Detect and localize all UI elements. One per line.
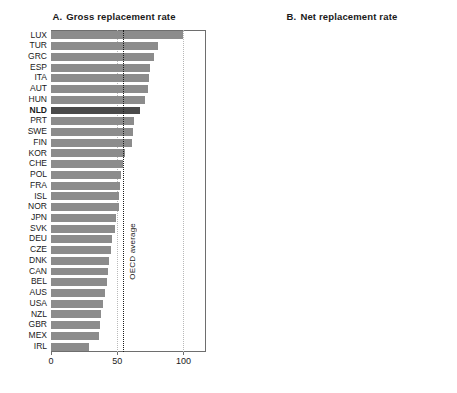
y-axis-label-irl: IRL (34, 341, 47, 352)
y-axis-label-pol: POL (30, 169, 47, 180)
y-axis-label-nzl: NZL (31, 309, 47, 320)
bar-row: GBR (51, 320, 206, 331)
bar-aut (51, 85, 148, 93)
y-axis-label-deu: DEU (29, 233, 47, 244)
y-axis-label-cze: CZE (30, 244, 47, 255)
bar-row: JPN (51, 212, 206, 223)
bar-grc (51, 53, 154, 61)
bar-row: HUN (51, 94, 206, 105)
y-axis-label-can: CAN (29, 266, 47, 277)
y-axis-label-fin: FIN (33, 137, 47, 148)
y-axis-label-jpn: JPN (31, 212, 47, 223)
x-tick-label-50: 50 (112, 356, 122, 366)
bar-row: KOR (51, 148, 206, 159)
y-axis-label-hun: HUN (29, 94, 47, 105)
bar-row: POL (51, 170, 206, 181)
y-axis-label-grc: GRC (28, 51, 47, 62)
panel-a-letter: A. (52, 11, 62, 22)
panel-a-gross-replacement-rate: A.Gross replacement rate LUXTURGRCESPITA… (0, 0, 228, 393)
bar-row: TUR (51, 41, 206, 52)
panel-b-title: B.Net replacement rate (228, 11, 456, 22)
bar-ita (51, 74, 149, 82)
bar-row: NOR (51, 202, 206, 213)
bar-fin (51, 139, 132, 147)
bar-nor (51, 203, 119, 211)
bar-aus (51, 289, 105, 297)
bar-isl (51, 192, 119, 200)
bar-dnk (51, 257, 109, 265)
bar-gbr (51, 321, 100, 329)
bar-usa (51, 300, 103, 308)
oecd-average-line (123, 30, 124, 352)
y-axis-label-usa: USA (30, 298, 47, 309)
bar-row: GRC (51, 51, 206, 62)
panel-a-title-text: Gross replacement rate (66, 11, 175, 22)
y-axis-label-fra: FRA (30, 180, 47, 191)
bar-row: AUT (51, 84, 206, 95)
bar-row: CHE (51, 159, 206, 170)
y-axis-label-isl: ISL (34, 191, 47, 202)
bar-swe (51, 128, 133, 136)
bar-row: FIN (51, 137, 206, 148)
panel-b-letter: B. (287, 11, 297, 22)
y-axis-label-gbr: GBR (29, 319, 47, 330)
bar-row: NZL (51, 309, 206, 320)
y-axis-label-nld: NLD (30, 105, 47, 116)
panel-a-plot-area: LUXTURGRCESPITAAUTHUNNLDPRTSWEFINKORCHEP… (51, 30, 206, 352)
y-axis-label-nor: NOR (28, 201, 47, 212)
bar-hun (51, 96, 145, 104)
bar-row: LUX (51, 30, 206, 41)
bar-row: IRL (51, 341, 206, 352)
bar-row: PRT (51, 116, 206, 127)
y-axis-label-lux: LUX (30, 30, 47, 41)
panel-a-bar-rows: LUXTURGRCESPITAAUTHUNNLDPRTSWEFINKORCHEP… (51, 30, 206, 352)
bar-row: USA (51, 298, 206, 309)
bar-irl (51, 343, 89, 351)
x-tick-label-0: 0 (48, 356, 53, 366)
bar-row: AUS (51, 288, 206, 299)
y-axis-label-aut: AUT (30, 83, 47, 94)
bar-deu (51, 235, 112, 243)
y-axis-label-svk: SVK (30, 223, 47, 234)
x-tick-100 (183, 352, 184, 355)
y-axis-label-tur: TUR (30, 40, 47, 51)
y-axis-label-ita: ITA (34, 72, 47, 83)
panel-b-net-replacement-rate: B.Net replacement rate LUXTURGRCAUTHUNIT… (228, 0, 456, 393)
bar-nzl (51, 310, 101, 318)
panel-a-title: A.Gross replacement rate (0, 11, 228, 22)
y-axis-label-aus: AUS (30, 287, 47, 298)
y-axis-label-mex: MEX (29, 330, 47, 341)
bar-row: ITA (51, 73, 206, 84)
bar-esp (51, 64, 150, 72)
bar-pol (51, 171, 121, 179)
y-axis-label-dnk: DNK (29, 255, 47, 266)
bar-fra (51, 182, 120, 190)
bar-row: NLD (51, 105, 206, 116)
bar-row: ISL (51, 191, 206, 202)
bar-lux (51, 31, 183, 39)
y-axis-label-bel: BEL (31, 276, 47, 287)
y-axis-label-esp: ESP (30, 62, 47, 73)
replacement-rate-figure: A.Gross replacement rate LUXTURGRCESPITA… (0, 0, 457, 393)
bar-row: FRA (51, 180, 206, 191)
x-tick-label-100: 100 (176, 356, 191, 366)
bar-can (51, 268, 108, 276)
bar-tur (51, 42, 158, 50)
y-axis-label-prt: PRT (30, 115, 47, 126)
bar-che (51, 160, 123, 168)
bar-mex (51, 332, 99, 340)
bar-row: MEX (51, 331, 206, 342)
bar-bel (51, 278, 107, 286)
y-axis-label-kor: KOR (29, 148, 47, 159)
bar-row: SWE (51, 127, 206, 138)
x-tick-0 (51, 352, 52, 355)
y-axis-label-che: CHE (29, 158, 47, 169)
y-axis-label-swe: SWE (28, 126, 47, 137)
bar-nld (51, 107, 140, 115)
bar-row: ESP (51, 62, 206, 73)
bar-svk (51, 225, 115, 233)
bar-kor (51, 149, 125, 157)
oecd-average-label: OECD average (128, 223, 137, 280)
bar-jpn (51, 214, 116, 222)
panel-a-x-axis: 050100 (51, 352, 206, 374)
